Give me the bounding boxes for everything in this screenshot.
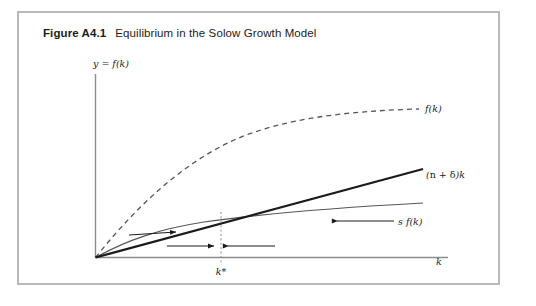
convergence-arrow-curve — [129, 232, 176, 235]
steady-state-label: k* — [216, 266, 227, 277]
production-function-label: f(k) — [424, 103, 442, 114]
x-axis-label: k — [436, 256, 442, 267]
breakeven-line — [96, 169, 424, 258]
figure-panel: Figure A4.1Equilibrium in the Solow Grow… — [17, 11, 500, 285]
solow-growth-chart: y = f(k) k f(k) (n + δ)k s f(k) k* — [19, 13, 502, 287]
savings-curve-label: s f(k) — [398, 216, 423, 227]
y-axis-label: y = f(k) — [92, 58, 129, 69]
breakeven-line-label: (n + δ)k — [426, 169, 465, 180]
savings-curve — [96, 203, 424, 258]
